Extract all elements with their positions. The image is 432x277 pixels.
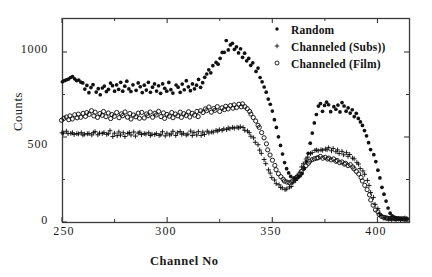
legend-label-channeled-film: Channeled (Film) [291, 58, 381, 70]
x-tick-label-300: 300 [144, 224, 188, 239]
legend-markers [275, 27, 280, 65]
legend-label-random: Random [291, 24, 334, 36]
y-tick-label-500: 500 [6, 137, 48, 152]
x-axis-label: Channel No [150, 254, 219, 269]
x-tick-label-250: 250 [42, 224, 86, 239]
series-channeled-film-points [59, 102, 408, 221]
x-tick-label-350: 350 [249, 224, 293, 239]
y-tick-label-1000: 1000 [0, 42, 48, 57]
x-tick-label-400: 400 [354, 224, 398, 239]
legend-label-channeled-subs: Channeled (Subs)) [291, 41, 385, 53]
scatter-chart-figure: Counts Channel No 0 500 1000 250 300 350… [0, 0, 432, 277]
